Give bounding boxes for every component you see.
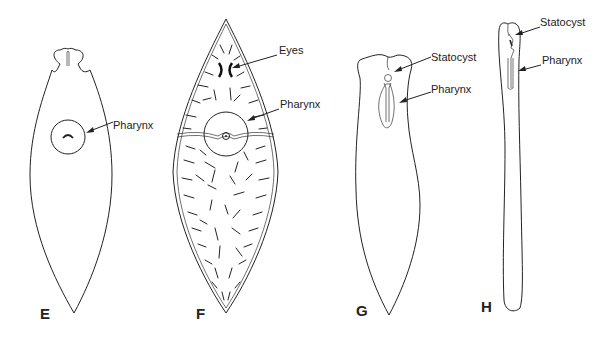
- panel-f: Eyes Pharynx F: [173, 19, 321, 322]
- label-pharynx-f: Pharynx: [280, 98, 321, 110]
- label-pharynx-g: Pharynx: [431, 83, 472, 95]
- label-statocyst-g: Statocyst: [431, 51, 476, 63]
- panel-h: Statocyst Pharynx H: [481, 16, 585, 315]
- label-pharynx-e: Pharynx: [113, 119, 154, 131]
- body-outline-f: [173, 19, 278, 313]
- figure: Pharynx E: [0, 0, 614, 340]
- panel-label-e: E: [40, 305, 50, 322]
- panel-label-h: H: [481, 298, 492, 315]
- panel-label-g: G: [356, 302, 368, 319]
- pharynx-e: [51, 120, 85, 154]
- label-statocyst-h: Statocyst: [540, 16, 585, 28]
- label-eyes-f: Eyes: [279, 44, 304, 56]
- panel-e: Pharynx E: [30, 48, 154, 322]
- panel-label-f: F: [196, 305, 205, 322]
- body-outline-g: [356, 55, 420, 315]
- body-outline-h: [499, 23, 523, 311]
- body-outline-e: [30, 48, 112, 313]
- panel-g: Statocyst Pharynx G: [356, 51, 477, 319]
- label-pharynx-h: Pharynx: [542, 54, 583, 66]
